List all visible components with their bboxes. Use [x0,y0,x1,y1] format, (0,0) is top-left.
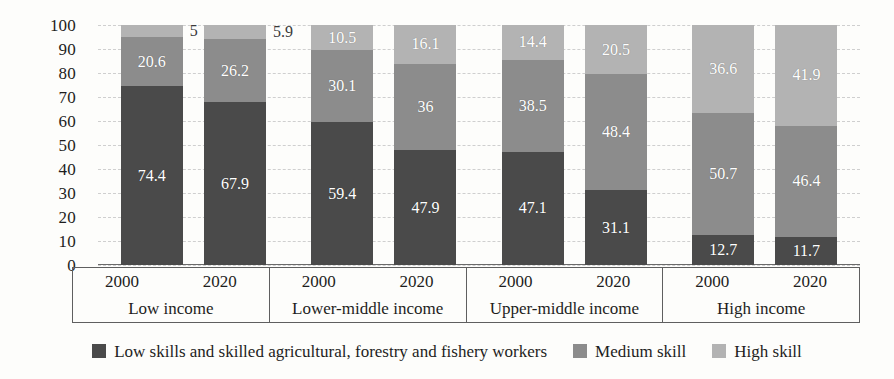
bar-value-label: 31.1 [585,220,647,236]
bar-low-income-2020[interactable]: 67.926.25.9 [204,25,266,265]
x-axis-year-label: 2000 [467,268,565,296]
bar-value-label: 59.4 [311,186,373,202]
category-group: 20002020Low income [73,268,270,322]
bar-value-label: 36 [394,99,456,115]
bar-value-label: 41.9 [775,67,837,83]
y-axis: 1009080706050403020100 [18,17,76,267]
gridline [98,265,860,266]
bar-high-income-2020[interactable]: 11.746.441.9 [775,25,837,265]
x-axis-year-label: 2020 [564,268,662,296]
bar-value-label: 26.2 [204,63,266,79]
bar-value-label: 67.9 [204,176,266,192]
bar-segment[interactable]: 31.1 [585,190,647,265]
y-axis-tick-label: 30 [20,185,76,202]
plot-area: 74.420.6567.926.25.959.430.110.547.93616… [98,25,860,265]
y-axis-tick-label: 60 [20,113,76,130]
y-axis-tick-label: 40 [20,161,76,178]
bar-lower-middle-income-2020[interactable]: 47.93616.1 [394,25,456,265]
bar-low-income-2000[interactable]: 74.420.65 [121,25,183,265]
bar-segment[interactable]: 38.5 [502,60,564,152]
legend-item[interactable]: Low skills and skilled agricultural, for… [92,343,547,360]
y-axis-tick-label: 90 [20,41,76,58]
bar-segment[interactable]: 16.1 [394,25,456,64]
bar-segment[interactable]: 48.4 [585,74,647,190]
y-axis-tick-label: 100 [20,17,76,34]
bar-value-label: 20.5 [585,42,647,58]
bar-segment[interactable]: 59.4 [311,122,373,265]
bar-segment[interactable]: 20.6 [121,37,183,86]
bar-segment[interactable]: 36.6 [692,25,754,113]
category-year-row: 20002020 [270,268,466,296]
y-axis-tick-label: 50 [20,137,76,154]
bar-upper-middle-income-2000[interactable]: 47.138.514.4 [502,25,564,265]
bar-value-label: 47.9 [394,200,456,216]
bar-segment[interactable]: 47.1 [502,152,564,265]
bar-segment[interactable]: 74.4 [121,86,183,265]
bar-segment[interactable]: 14.4 [502,25,564,60]
bar-value-label: 50.7 [692,166,754,182]
bar-value-label: 30.1 [311,78,373,94]
bar-segment[interactable]: 46.4 [775,126,837,237]
x-axis-year-label: 2000 [270,268,368,296]
legend-label: Low skills and skilled agricultural, for… [114,343,547,360]
bar-value-label: 20.6 [121,54,183,70]
bar-lower-middle-income-2000[interactable]: 59.430.110.5 [311,25,373,265]
bar-segment[interactable]: 30.1 [311,50,373,122]
bar-value-label: 11.7 [775,243,837,259]
y-axis-tick-label: 80 [20,65,76,82]
chart-legend: Low skills and skilled agricultural, for… [0,336,894,366]
category-group: 20002020Lower-middle income [270,268,467,322]
bar-segment[interactable]: 36 [394,64,456,150]
bar-value-label: 38.5 [502,98,564,114]
x-axis-year-label: 2020 [171,268,269,296]
bar-value-label: 10.5 [311,30,373,46]
bar-segment[interactable]: 26.2 [204,39,266,102]
x-axis-group-label: High income [663,296,859,322]
y-axis-tick-label: 0 [20,257,76,274]
legend-swatch-high-skill-icon [712,344,726,358]
x-axis-year-label: 2020 [368,268,466,296]
y-axis-tick-label: 10 [20,233,76,250]
bar-value-label: 14.4 [502,34,564,50]
bar-value-label: 47.1 [502,200,564,216]
bar-high-income-2000[interactable]: 12.750.736.6 [692,25,754,265]
x-axis-year-label: 2020 [761,268,859,296]
legend-item[interactable]: High skill [712,343,802,360]
bar-upper-middle-income-2020[interactable]: 31.148.420.5 [585,25,647,265]
bar-value-label: 48.4 [585,124,647,140]
bar-segment[interactable]: 67.9 [204,102,266,265]
category-group: 20002020Upper-middle income [467,268,664,322]
category-year-row: 20002020 [73,268,269,296]
bar-value-label: 46.4 [775,173,837,189]
category-axis-table: 20002020Low income20002020Lower-middle i… [72,267,860,323]
bar-value-label: 36.6 [692,61,754,77]
y-axis-tick-label: 20 [20,209,76,226]
bar-segment[interactable]: 20.5 [585,25,647,74]
category-year-row: 20002020 [467,268,663,296]
bar-segment[interactable]: 50.7 [692,113,754,235]
bar-segment[interactable]: 47.9 [394,150,456,265]
bar-segment[interactable]: 10.5 [311,25,373,50]
category-group: 20002020High income [663,268,859,322]
bar-segment[interactable]: 5.9 [204,25,266,39]
bar-value-label: 16.1 [394,36,456,52]
legend-swatch-medium-skill-icon [573,344,587,358]
bar-segment[interactable]: 12.7 [692,235,754,265]
x-axis-year-label: 2000 [663,268,761,296]
x-axis-group-label: Low income [73,296,269,322]
bar-segment[interactable]: 11.7 [775,237,837,265]
bar-segment[interactable]: 5 [121,25,183,37]
y-axis-tick-label: 70 [20,89,76,106]
bar-value-label: 74.4 [121,168,183,184]
legend-label: Medium skill [595,343,686,360]
bar-value-label: 12.7 [692,242,754,258]
legend-item[interactable]: Medium skill [573,343,686,360]
stacked-bar-chart: 1009080706050403020100 74.420.6567.926.2… [0,0,894,379]
category-year-row: 20002020 [663,268,859,296]
x-axis-year-label: 2000 [73,268,171,296]
legend-swatch-low-skill-icon [92,344,106,358]
x-axis-group-label: Lower-middle income [270,296,466,322]
legend-label: High skill [734,343,802,360]
bar-segment[interactable]: 41.9 [775,25,837,126]
x-axis-group-label: Upper-middle income [467,296,663,322]
